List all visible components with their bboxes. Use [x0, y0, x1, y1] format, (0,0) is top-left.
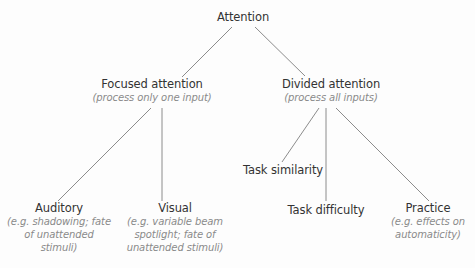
edge-divided-similarity	[282, 108, 319, 162]
node-attention-label: Attention	[217, 10, 269, 24]
node-visual-sub-3: unattended stimuli)	[127, 241, 224, 254]
node-focused-attention: Focused attention (process only one inpu…	[92, 77, 211, 104]
node-similarity-label: Task similarity	[243, 163, 323, 177]
node-visual-label: Visual	[127, 201, 224, 215]
node-auditory-sub-3: stimuli)	[7, 241, 111, 254]
edge-divided-practice	[336, 108, 429, 201]
node-focused-label: Focused attention	[92, 77, 211, 91]
edge-root-focused	[182, 27, 232, 77]
node-divided-sub: (process all inputs)	[282, 91, 380, 104]
node-divided-attention: Divided attention (process all inputs)	[282, 77, 380, 104]
node-practice-sub-1: (e.g. effects on	[391, 215, 465, 228]
node-visual-sub-1: (e.g. variable beam	[127, 215, 224, 228]
node-auditory: Auditory (e.g. shadowing; fate of unatte…	[7, 201, 111, 254]
node-task-difficulty: Task difficulty	[288, 203, 365, 217]
node-auditory-label: Auditory	[7, 201, 111, 215]
node-attention: Attention	[217, 10, 269, 24]
node-visual: Visual (e.g. variable beam spotlight; fa…	[127, 201, 224, 254]
node-auditory-sub-2: of unattended	[7, 228, 111, 241]
edge-focused-auditory	[58, 108, 151, 201]
node-divided-label: Divided attention	[282, 77, 380, 91]
attention-tree-diagram: Attention Focused attention (process onl…	[0, 0, 475, 268]
node-task-similarity: Task similarity	[243, 163, 323, 177]
node-difficulty-label: Task difficulty	[288, 203, 365, 217]
node-visual-sub-2: spotlight; fate of	[127, 228, 224, 241]
edge-root-divided	[255, 27, 305, 76]
node-auditory-sub-1: (e.g. shadowing; fate	[7, 215, 111, 228]
node-practice-sub-2: automaticity)	[391, 228, 465, 241]
node-practice-label: Practice	[391, 201, 465, 215]
node-practice: Practice (e.g. effects on automaticity)	[391, 201, 465, 241]
node-focused-sub: (process only one input)	[92, 91, 211, 104]
